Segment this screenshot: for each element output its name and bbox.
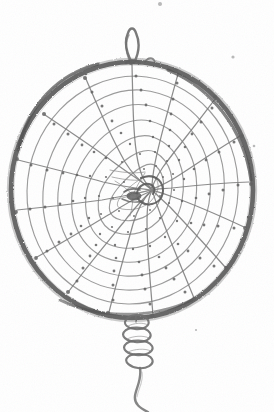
- netted-hoop-illustration: [0, 0, 274, 412]
- paper-grain-overlay: [0, 0, 274, 412]
- drawing-canvas: Hand drawn circular netted hoop with a r…: [0, 0, 274, 412]
